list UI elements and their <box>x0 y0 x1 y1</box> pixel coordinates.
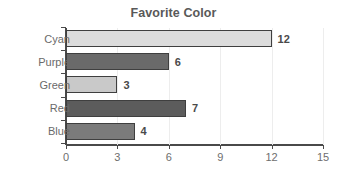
x-tick-3 <box>117 145 118 149</box>
y-tick-1 <box>61 50 66 51</box>
x-tick-label-15: 15 <box>308 151 338 163</box>
gridline-x-12 <box>272 28 273 145</box>
y-tick-4 <box>61 120 66 121</box>
y-tick-end <box>61 143 66 144</box>
bar-value-label-cyan: 12 <box>278 34 290 45</box>
bar-value-label-purple: 6 <box>175 57 181 68</box>
x-tick-6 <box>169 145 170 149</box>
category-label-red: Red <box>50 103 70 114</box>
x-tick-label-9: 9 <box>205 151 235 163</box>
chart-title: Favorite Color <box>0 6 347 20</box>
category-label-blue: Blue <box>48 126 70 137</box>
bar-blue <box>66 123 135 140</box>
x-tick-label-12: 12 <box>257 151 287 163</box>
category-label-purple: Purple <box>38 57 70 68</box>
x-tick-label-6: 6 <box>154 151 184 163</box>
x-tick-9 <box>220 145 221 149</box>
bar-value-label-blue: 4 <box>141 126 147 137</box>
bar-green <box>66 76 117 93</box>
x-tick-label-3: 3 <box>102 151 132 163</box>
bar-value-label-green: 3 <box>123 80 129 91</box>
bar-value-label-red: 7 <box>192 103 198 114</box>
bar-red <box>66 100 186 117</box>
x-tick-label-0: 0 <box>51 151 81 163</box>
bar-purple <box>66 53 169 70</box>
x-tick-12 <box>272 145 273 149</box>
category-label-green: Green <box>39 80 70 91</box>
y-tick-3 <box>61 97 66 98</box>
y-tick-2 <box>61 73 66 74</box>
gridline-x-15 <box>323 28 324 145</box>
bar-cyan <box>66 30 272 47</box>
bar-chart: Favorite Color 0369121512Cyan6Purple3Gre… <box>0 0 347 171</box>
y-tick-0 <box>61 27 66 28</box>
category-label-cyan: Cyan <box>44 34 70 45</box>
x-tick-15 <box>323 145 324 149</box>
x-tick-0 <box>66 145 67 149</box>
